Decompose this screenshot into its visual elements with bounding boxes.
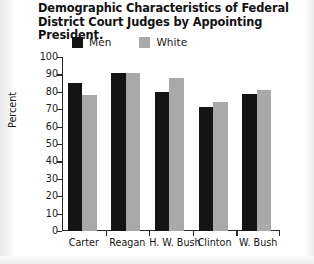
bar-white	[126, 73, 141, 231]
y-axis-tick-label: 50	[46, 138, 58, 149]
legend-label: Men	[89, 36, 111, 48]
y-axis-title: Percent	[7, 92, 18, 128]
chart-figure: Demographic Characteristics of Federal D…	[0, 0, 314, 264]
y-axis-tick-label: 10	[46, 208, 58, 219]
x-axis-category-label: Reagan	[106, 237, 150, 248]
y-axis-tick-label: 100	[40, 51, 58, 62]
x-axis-tick-mark	[236, 231, 237, 236]
chart-legend: MenWhite	[72, 36, 187, 48]
bar-white	[169, 78, 184, 231]
x-axis-tick-mark	[149, 231, 150, 236]
bar-men	[68, 83, 83, 231]
bar-men	[199, 107, 214, 231]
bar-group: Carter	[62, 57, 106, 231]
bar-group: Reagan	[106, 57, 150, 231]
bar-group: Clinton	[193, 57, 237, 231]
x-axis-category-label: Carter	[62, 237, 106, 248]
x-axis-category-label: H. W. Bush	[149, 237, 193, 248]
y-tick-group: 0	[62, 231, 63, 232]
y-axis-tick-label: 20	[46, 190, 58, 201]
bar-white	[82, 95, 97, 231]
legend-entry-white: White	[139, 36, 187, 48]
y-axis-tick-label: 80	[46, 86, 58, 97]
scan-edge-artifact-bottom	[0, 256, 314, 264]
x-axis-tick-mark	[193, 231, 194, 236]
bar-group: W. Bush	[236, 57, 280, 231]
legend-swatch-icon	[139, 37, 150, 48]
bar-men	[111, 73, 126, 231]
scan-edge-artifact-right	[305, 0, 314, 264]
y-axis-tick-label: 60	[46, 121, 58, 132]
bar-men	[242, 94, 257, 231]
bar-men	[155, 92, 170, 231]
x-axis-category-label: Clinton	[193, 237, 237, 248]
y-axis-tick-label: 30	[46, 173, 58, 184]
legend-entry-men: Men	[72, 36, 111, 48]
plot-area: 1009080706050403020100CarterReaganH. W. …	[62, 57, 280, 231]
bar-group: H. W. Bush	[149, 57, 193, 231]
x-axis-tick-mark-end	[279, 231, 280, 236]
y-axis-tick-label: 0	[52, 225, 58, 236]
bar-white	[213, 102, 228, 231]
y-axis-tick-label: 40	[46, 155, 58, 166]
x-axis-tick-mark	[106, 231, 107, 236]
legend-label: White	[156, 36, 187, 48]
x-axis-category-label: W. Bush	[236, 237, 280, 248]
bar-white	[257, 90, 272, 231]
legend-swatch-icon	[72, 37, 83, 48]
y-axis-tick-label: 90	[46, 68, 58, 79]
scan-edge-artifact-left	[0, 0, 13, 264]
y-axis-tick-label: 70	[46, 103, 58, 114]
